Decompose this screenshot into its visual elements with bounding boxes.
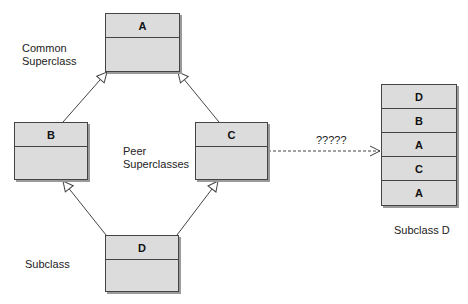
stack-row: B bbox=[382, 109, 456, 133]
common-superclass-label: Common Superclass bbox=[22, 42, 76, 68]
class-c[interactable]: C bbox=[195, 122, 268, 180]
class-d[interactable]: D bbox=[105, 235, 179, 292]
class-b[interactable]: B bbox=[14, 122, 88, 180]
question-label: ????? bbox=[316, 134, 347, 147]
subclass-d-mro-stack: D B A C A bbox=[381, 84, 457, 206]
class-a[interactable]: A bbox=[105, 13, 180, 72]
generalization-b-to-a bbox=[63, 72, 107, 122]
stack-row: D bbox=[382, 85, 456, 109]
stack-row: A bbox=[382, 181, 456, 205]
peer-superclasses-label: Peer Superclasses bbox=[123, 145, 189, 171]
generalization-d-to-b bbox=[63, 181, 106, 235]
class-a-name: A bbox=[106, 14, 179, 38]
subclass-label: Subclass bbox=[25, 258, 70, 271]
stack-row: A bbox=[382, 133, 456, 157]
class-c-name: C bbox=[196, 123, 267, 147]
generalization-d-to-c bbox=[177, 181, 218, 235]
stack-row: C bbox=[382, 157, 456, 181]
subclass-d-label: Subclass D bbox=[394, 224, 450, 237]
class-b-name: B bbox=[15, 123, 87, 147]
generalization-c-to-a bbox=[178, 72, 219, 122]
class-d-name: D bbox=[106, 236, 178, 260]
